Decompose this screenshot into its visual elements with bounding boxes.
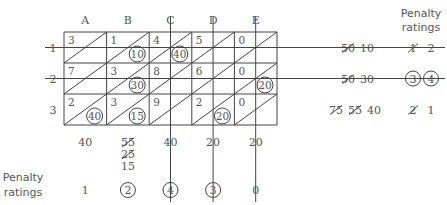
cell-allocation: 15 xyxy=(131,110,144,122)
penalty-header-line2: ratings xyxy=(402,21,441,34)
supply-value: 40 xyxy=(367,104,381,117)
column-label-A: A xyxy=(80,14,90,27)
cell-allocation: 10 xyxy=(131,48,144,60)
demand-column-C: 40 xyxy=(164,136,178,149)
penalty-value: 0 xyxy=(252,184,259,197)
cell-cost: 2 xyxy=(196,96,203,108)
demand-value: 40 xyxy=(78,136,92,149)
row-label-2: 2 xyxy=(50,73,57,86)
penalty-value: 2 xyxy=(428,42,435,55)
demand-value: 20 xyxy=(206,136,220,149)
transportation-table-diagram: 31104405073308602024031592200 ABCDE123 5… xyxy=(0,0,447,205)
demand-column-A: 40 xyxy=(78,136,92,149)
cell-3-A: 240 xyxy=(64,94,107,125)
column-label-C: C xyxy=(166,14,174,27)
cell-cost: 3 xyxy=(111,65,118,77)
column-penalty-B: 2 xyxy=(120,183,135,198)
cell-allocation: 20 xyxy=(216,110,229,122)
cell-cost: 6 xyxy=(196,65,203,77)
cell-cost: 0 xyxy=(238,65,245,77)
row-label-1: 1 xyxy=(50,42,57,55)
column-penalty-D: 3 xyxy=(206,183,221,198)
column-label-B: B xyxy=(124,14,132,27)
penalty-value: 3 xyxy=(210,184,217,197)
penalty-value: 2 xyxy=(124,184,131,197)
cell-3-B: 315 xyxy=(107,94,150,125)
supply-value: 30 xyxy=(360,73,374,86)
cell-cost: 0 xyxy=(238,34,245,46)
demand-value: 40 xyxy=(164,136,178,149)
row-label-3: 3 xyxy=(50,104,57,117)
demand-value: 20 xyxy=(249,136,263,149)
column-label-D: D xyxy=(209,14,218,27)
column-penalty-C: 4 xyxy=(163,183,178,198)
supply-row-3: 755540 xyxy=(329,104,381,117)
supply-value: 10 xyxy=(360,42,374,55)
cell-cost: 5 xyxy=(196,34,203,46)
cell-allocation: 40 xyxy=(88,110,101,122)
penalty-footer-line2: ratings xyxy=(4,186,43,199)
demand-column-B: 552515 xyxy=(121,136,135,173)
penalty-value: 1 xyxy=(428,104,435,117)
demand-column-D: 20 xyxy=(206,136,220,149)
column-penalty-A: 1 xyxy=(82,184,89,197)
cell-cost: 3 xyxy=(68,34,75,46)
cell-cost: 0 xyxy=(238,96,245,108)
penalty-value: 4 xyxy=(428,73,435,86)
cell-cost: 1 xyxy=(111,34,118,46)
cell-cost: 9 xyxy=(153,96,160,108)
cell-cost: 7 xyxy=(68,65,75,77)
penalty-value: 3 xyxy=(410,73,417,86)
cell-allocation: 20 xyxy=(258,79,271,91)
cell-allocation: 30 xyxy=(131,79,144,91)
penalty-value: 1 xyxy=(82,184,89,197)
cell-allocation: 40 xyxy=(173,48,186,60)
column-label-E: E xyxy=(252,14,260,27)
row-penalty-3: 21 xyxy=(408,104,435,117)
demand-column-E: 20 xyxy=(249,136,263,149)
column-penalty-E: 0 xyxy=(252,184,259,197)
cell-cost: 8 xyxy=(153,65,160,77)
cell-cost: 4 xyxy=(153,34,160,46)
cell-cost: 2 xyxy=(68,96,75,108)
demand-value: 15 xyxy=(121,160,135,173)
penalty-header-line1: Penalty xyxy=(401,7,442,20)
penalty-footer-line1: Penalty xyxy=(3,171,44,184)
penalty-value: 4 xyxy=(167,184,174,197)
cell-cost: 3 xyxy=(111,96,118,108)
